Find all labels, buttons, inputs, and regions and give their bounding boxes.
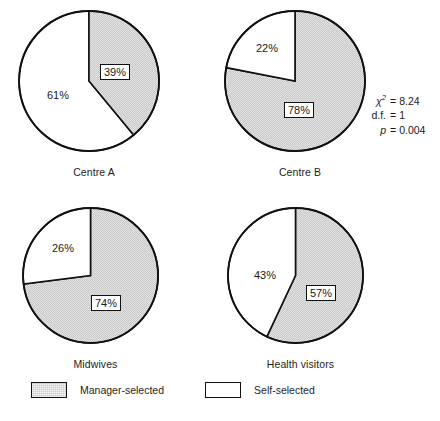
slice-label-self-selected: 61% <box>47 90 69 101</box>
slice-label-manager-selected: 57% <box>306 285 336 301</box>
stat-row-p-value: p = 0.004 <box>360 123 429 138</box>
legend-swatch-shaded <box>31 382 67 398</box>
pie-svg-centre-b <box>220 6 370 156</box>
pie-svg-centre-a <box>14 6 164 156</box>
pie-chart-centre-b: 78% 22% <box>220 6 370 156</box>
equals-sign: = <box>390 94 396 109</box>
p-value: 0.004 <box>399 123 429 138</box>
legend-item-self-selected: Self-selected <box>205 382 315 398</box>
stat-row-chi-square: χ2 = 8.24 <box>360 93 429 108</box>
statistics-annotation: χ2 = 8.24 d.f. = 1 p = 0.004 <box>360 93 429 138</box>
slice-label-manager-selected: 39% <box>100 64 130 80</box>
pie-panel-midwives: 74% 26% Midwives <box>18 203 173 373</box>
legend-label-manager-selected: Manager-selected <box>80 384 164 396</box>
pie-panel-title-centre-a: Centre A <box>14 166 174 178</box>
pie-panel-health-visitors: 57% 43% Health visitors <box>223 203 378 373</box>
legend-label-self-selected: Self-selected <box>254 384 315 396</box>
slice-label-manager-selected: 74% <box>91 295 121 311</box>
stat-row-df: d.f. = 1 <box>360 108 429 123</box>
slice-label-self-selected: 43% <box>254 270 276 281</box>
chi-square-exponent: 2 <box>382 93 386 102</box>
chi-square-term: χ2 <box>360 93 386 108</box>
pie-panel-title-centre-b: Centre B <box>220 166 380 178</box>
legend: Manager-selected Self-selected <box>31 382 315 398</box>
chi-square-value: 8.24 <box>399 94 429 109</box>
pie-chart-centre-a: 39% 61% <box>14 6 164 156</box>
slice-label-self-selected: 22% <box>256 43 278 54</box>
df-value: 1 <box>399 108 429 123</box>
equals-sign: = <box>390 108 396 123</box>
pie-panel-centre-b: 78% 22% Centre B <box>220 6 380 181</box>
pie-chart-midwives: 74% 26% <box>18 203 163 348</box>
p-term: p <box>360 123 386 138</box>
slice-label-manager-selected: 78% <box>284 102 314 118</box>
legend-swatch-plain <box>205 382 241 398</box>
equals-sign: = <box>390 123 396 138</box>
pie-chart-health-visitors: 57% 43% <box>223 203 368 348</box>
figure-caption <box>18 411 428 421</box>
legend-item-manager-selected: Manager-selected <box>31 382 164 398</box>
pie-svg-health-visitors <box>223 203 368 348</box>
pie-chart-figure: 39% 61% Centre A 78% <box>0 0 440 421</box>
pie-panel-title-health-visitors: Health visitors <box>223 358 378 370</box>
slice-label-self-selected: 26% <box>52 243 74 254</box>
df-term: d.f. <box>360 108 386 123</box>
pie-svg-midwives <box>18 203 163 348</box>
pie-panel-title-midwives: Midwives <box>18 358 173 370</box>
pie-panel-centre-a: 39% 61% Centre A <box>14 6 174 181</box>
